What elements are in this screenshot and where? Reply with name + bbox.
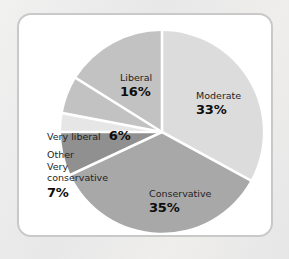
slice-label-conservative-value: 35%	[149, 201, 211, 216]
slice-label-moderate: Moderate 33%	[196, 91, 241, 117]
slice-label-very-conservative-name: Very conservative	[47, 162, 119, 183]
slice-label-liberal-name: Liberal	[120, 73, 152, 84]
slice-label-very-liberal: Very liberal 6%	[47, 126, 130, 144]
slice-label-conservative-name: Conservative	[149, 189, 211, 200]
slice-label-other-name: Other	[47, 149, 74, 160]
slice-label-liberal: Liberal 16%	[120, 73, 152, 99]
slice-label-very-conservative: Very conservative 7%	[47, 162, 119, 201]
slice-label-moderate-name: Moderate	[196, 91, 241, 102]
slice-label-conservative: Conservative 35%	[149, 189, 211, 215]
slice-label-other: Other	[47, 144, 74, 162]
pie-chart-svg	[19, 15, 271, 235]
chart-card: Liberal 16% Moderate 33% Very liberal 6%…	[17, 13, 273, 237]
pie-chart: Liberal 16% Moderate 33% Very liberal 6%…	[19, 15, 271, 235]
slice-label-very-conservative-value: 7%	[47, 185, 69, 200]
slice-label-very-liberal-name: Very liberal	[47, 131, 101, 142]
slice-label-liberal-value: 16%	[120, 85, 152, 100]
slice-label-moderate-value: 33%	[196, 103, 241, 118]
slice-label-very-liberal-value: 6%	[109, 128, 131, 143]
